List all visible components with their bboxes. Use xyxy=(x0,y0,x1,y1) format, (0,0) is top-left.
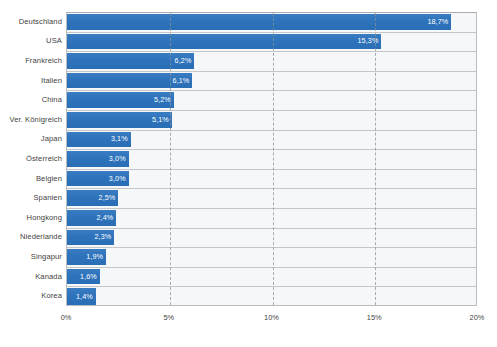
category-label: Spanien xyxy=(0,194,62,202)
bar-value-label: 3,0% xyxy=(109,155,126,162)
bar-row: 5,1% xyxy=(67,111,476,131)
bar: 2,5% xyxy=(67,190,118,206)
axis-tick-label: 15% xyxy=(367,314,382,321)
horizontal-bar-chart: DeutschlandUSAFrankreichItalienChinaVer.… xyxy=(0,12,497,347)
bar-value-label: 3,0% xyxy=(109,175,126,182)
category-axis-labels: DeutschlandUSAFrankreichItalienChinaVer.… xyxy=(0,12,62,306)
bar-value-label: 3,1% xyxy=(111,136,128,143)
bar-row: 15,3% xyxy=(67,33,476,53)
bar: 2,3% xyxy=(67,230,114,246)
bar-value-label: 1,6% xyxy=(80,273,97,280)
bar: 1,4% xyxy=(67,288,96,305)
bar: 2,4% xyxy=(67,210,116,226)
bar: 18,7% xyxy=(67,14,451,30)
bar-row: 3,0% xyxy=(67,150,476,170)
axis-tick-label: 5% xyxy=(163,314,174,321)
bar-value-label: 6,2% xyxy=(175,57,192,64)
bar-value-label: 5,2% xyxy=(154,97,171,104)
category-label: Frankreich xyxy=(0,57,62,65)
category-label: USA xyxy=(0,37,62,45)
bar-value-label: 1,4% xyxy=(76,293,93,300)
value-axis-labels: 0%5%10%15%20% xyxy=(66,306,477,332)
category-label: Deutschland xyxy=(0,18,62,26)
category-label: Hongkong xyxy=(0,214,62,222)
bar: 5,1% xyxy=(67,112,172,128)
bar: 1,6% xyxy=(67,269,100,285)
bar: 5,2% xyxy=(67,92,174,108)
bar-row: 1,9% xyxy=(67,248,476,268)
bar: 15,3% xyxy=(67,34,381,50)
plot-area: 18,7%15,3%6,2%6,1%5,2%5,1%3,1%3,0%3,0%2,… xyxy=(66,12,477,306)
axis-tick-label: 10% xyxy=(264,314,279,321)
bar-row: 3,1% xyxy=(67,131,476,151)
bar: 3,0% xyxy=(67,151,129,167)
bar-value-label: 2,5% xyxy=(99,195,116,202)
bar-row: 3,0% xyxy=(67,170,476,190)
bar-row: 2,5% xyxy=(67,189,476,209)
bar-row: 6,1% xyxy=(67,72,476,92)
bar-row: 1,4% xyxy=(67,287,476,307)
bar-row: 2,3% xyxy=(67,229,476,249)
bar-row: 1,6% xyxy=(67,268,476,288)
bar: 3,0% xyxy=(67,171,129,187)
bar: 1,9% xyxy=(67,249,106,265)
bar-rows: 18,7%15,3%6,2%6,1%5,2%5,1%3,1%3,0%3,0%2,… xyxy=(67,13,476,305)
category-label: Japan xyxy=(0,135,62,143)
axis-tick-label: 20% xyxy=(470,314,485,321)
category-label: Italien xyxy=(0,77,62,85)
bar-row: 5,2% xyxy=(67,91,476,111)
category-label: Kanada xyxy=(0,273,62,281)
bar-value-label: 2,3% xyxy=(94,234,111,241)
category-label: Österreich xyxy=(0,155,62,163)
category-label: Ver. Königreich xyxy=(0,116,62,124)
bar-value-label: 5,1% xyxy=(152,116,169,123)
category-label: Belgien xyxy=(0,175,62,183)
bar-value-label: 18,7% xyxy=(427,18,448,25)
bar-value-label: 2,4% xyxy=(97,214,114,221)
bar-value-label: 15,3% xyxy=(358,38,379,45)
bar-value-label: 6,1% xyxy=(173,77,190,84)
category-label: Korea xyxy=(0,292,62,300)
category-label: China xyxy=(0,96,62,104)
bar-row: 18,7% xyxy=(67,13,476,33)
bar-row: 2,4% xyxy=(67,209,476,229)
bar: 6,1% xyxy=(67,73,192,89)
axis-tick-label: 0% xyxy=(61,314,72,321)
bar: 3,1% xyxy=(67,132,131,148)
category-label: Singapur xyxy=(0,253,62,261)
bar-row: 6,2% xyxy=(67,52,476,72)
clipped-caption xyxy=(0,0,497,6)
category-label: Niederlande xyxy=(0,233,62,241)
bar-value-label: 1,9% xyxy=(86,253,103,260)
bar: 6,2% xyxy=(67,53,194,69)
